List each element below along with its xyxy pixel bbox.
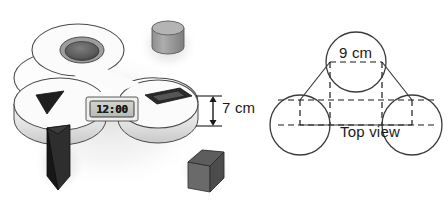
triangle-right-edge xyxy=(382,62,412,100)
topview-diameter-label: 9 cm xyxy=(339,44,372,61)
clock-time-text: 12:00 xyxy=(92,103,132,116)
cylinder-top-face xyxy=(152,21,184,35)
height-dimension-label: 7 cm xyxy=(222,99,255,116)
topview-caption: Top view xyxy=(340,123,400,140)
circular-socket[interactable] xyxy=(60,37,104,63)
figure-root: 7 cm 9 cm Top view 12:00 xyxy=(0,0,448,214)
topview-triangle xyxy=(300,62,412,125)
triangular-prism-block[interactable] xyxy=(47,125,70,190)
dimension-arrowhead-down xyxy=(210,120,217,126)
triangle-left-edge xyxy=(300,62,330,100)
topview-dashed-guides xyxy=(278,62,434,125)
cube-front-face xyxy=(188,162,210,192)
cylinder-block[interactable] xyxy=(152,21,184,54)
circular-socket-hole xyxy=(65,42,99,61)
dimension-arrowhead-up xyxy=(210,96,217,102)
